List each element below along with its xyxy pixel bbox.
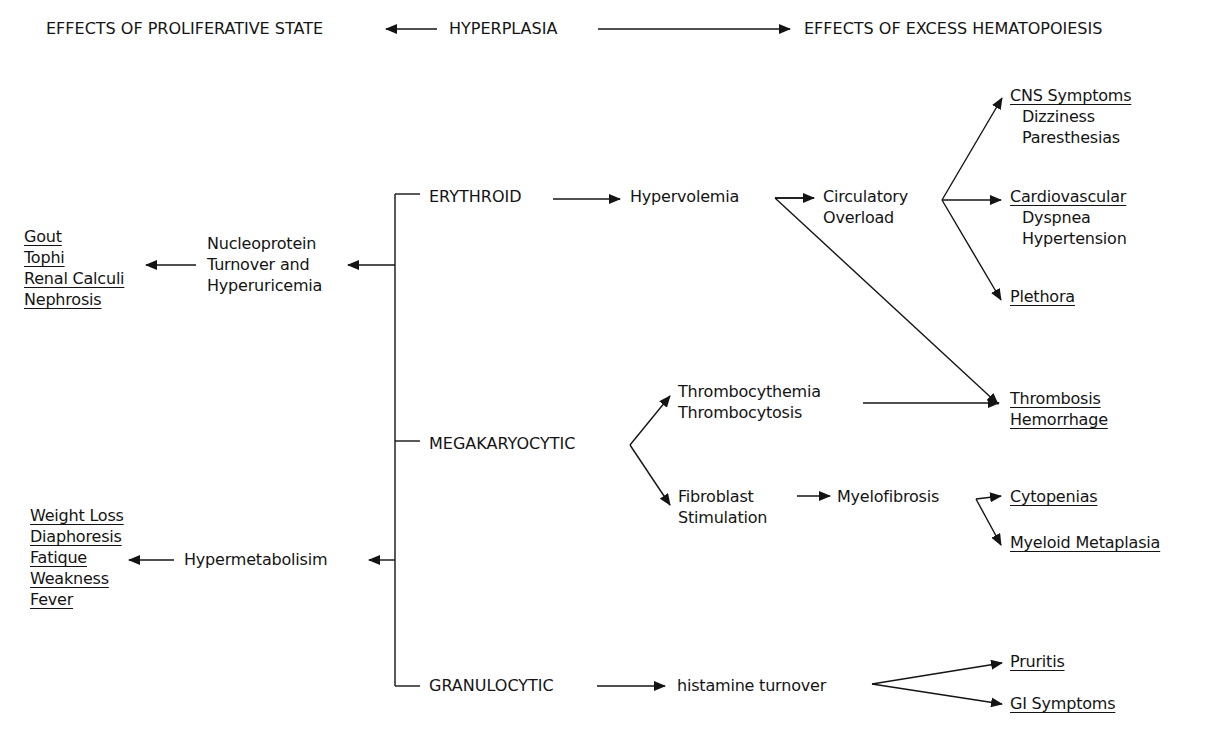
hypervolemia-node: Hypervolemia	[630, 186, 739, 207]
effect-renal-calculi: Renal Calculi	[24, 268, 124, 289]
cardio-hypertension: Hypertension	[1010, 228, 1127, 249]
pruritis-node: Pruritis	[1010, 651, 1065, 672]
cardio-title: Cardiovascular	[1010, 186, 1127, 207]
thrombocythemia-node: Thrombocythemia Thrombocytosis	[678, 381, 821, 423]
granulocytic-node: GRANULOCYTIC	[429, 675, 554, 696]
myeloid-metaplasia-node: Myeloid Metaplasia	[1010, 532, 1160, 553]
megakaryocytic-node: MEGAKARYOCYTIC	[429, 433, 575, 454]
gout-effects-list: Gout Tophi Renal Calculi Nephrosis	[24, 226, 124, 310]
hypermetabolism-node: Hypermetabolisim	[184, 549, 327, 570]
nucleoprotein-line-1: Nucleoprotein	[207, 233, 322, 254]
header-hyperplasia: HYPERPLASIA	[449, 18, 557, 39]
effect-gout: Gout	[24, 226, 124, 247]
nucleoprotein-line-2: Turnover and	[207, 254, 322, 275]
cardio-dyspnea: Dyspnea	[1010, 207, 1127, 228]
circulatory-line-1: Circulatory	[823, 186, 908, 207]
effect-fatique: Fatique	[30, 547, 124, 568]
effect-weakness: Weakness	[30, 568, 124, 589]
effect-tophi: Tophi	[24, 247, 124, 268]
effect-fever: Fever	[30, 589, 124, 610]
thrombocytosis-line: Thrombocytosis	[678, 402, 821, 423]
thrombosis-hemorrhage-node: Thrombosis Hemorrhage	[1010, 388, 1108, 430]
outcome-hemorrhage: Hemorrhage	[1010, 409, 1108, 430]
fibroblast-node: Fibroblast Stimulation	[678, 486, 767, 528]
cns-paresthesias: Paresthesias	[1010, 127, 1131, 148]
hypermetabolism-effects-list: Weight Loss Diaphoresis Fatique Weakness…	[30, 505, 124, 610]
thrombocythemia-line: Thrombocythemia	[678, 381, 821, 402]
header-proliferative-state: EFFECTS OF PROLIFERATIVE STATE	[46, 18, 323, 39]
cytopenias-node: Cytopenias	[1010, 486, 1097, 507]
effect-diaphoresis: Diaphoresis	[30, 526, 124, 547]
histamine-turnover-node: histamine turnover	[677, 675, 826, 696]
circulatory-overload-node: Circulatory Overload	[823, 186, 908, 228]
nucleoprotein-line-3: Hyperuricemia	[207, 275, 322, 296]
cns-dizziness: Dizziness	[1010, 106, 1131, 127]
circulatory-line-2: Overload	[823, 207, 908, 228]
erythroid-node: ERYTHROID	[429, 186, 522, 207]
fibroblast-line-2: Stimulation	[678, 507, 767, 528]
myelofibrosis-node: Myelofibrosis	[837, 486, 939, 507]
effect-nephrosis: Nephrosis	[24, 289, 124, 310]
effect-weight-loss: Weight Loss	[30, 505, 124, 526]
header-excess-hematopoiesis: EFFECTS OF EXCESS HEMATOPOIESIS	[804, 18, 1102, 39]
cns-title: CNS Symptoms	[1010, 85, 1131, 106]
fibroblast-line-1: Fibroblast	[678, 486, 767, 507]
cns-symptoms-node: CNS Symptoms Dizziness Paresthesias	[1010, 85, 1131, 148]
outcome-thrombosis: Thrombosis	[1010, 388, 1108, 409]
nucleoprotein-node: Nucleoprotein Turnover and Hyperuricemia	[207, 233, 322, 296]
gi-symptoms-node: GI Symptoms	[1010, 693, 1115, 714]
plethora-node: Plethora	[1010, 286, 1075, 307]
cardiovascular-node: Cardiovascular Dyspnea Hypertension	[1010, 186, 1127, 249]
